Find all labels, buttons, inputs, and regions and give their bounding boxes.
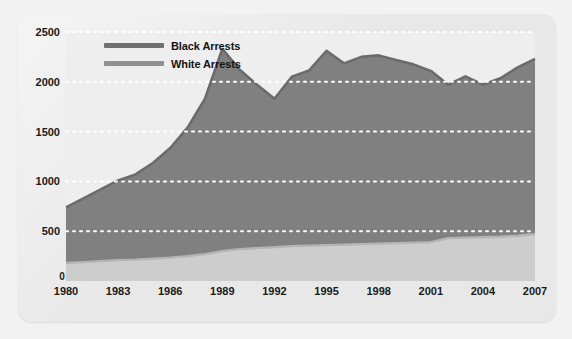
legend-label-white-arrests: White Arrests bbox=[171, 58, 241, 70]
stacked-area-chart: 5001000150020002500 19801983198619891992… bbox=[0, 0, 572, 339]
x-tick-label: 1992 bbox=[262, 285, 286, 297]
y-tick-label: 2500 bbox=[36, 26, 60, 38]
chart-page: 5001000150020002500 19801983198619891992… bbox=[0, 0, 572, 339]
y-tick-label: 1000 bbox=[36, 175, 60, 187]
chart-legend: Black Arrests White Arrests bbox=[104, 38, 241, 74]
y-axis: 5001000150020002500 bbox=[0, 0, 60, 339]
x-tick-label: 1986 bbox=[158, 285, 182, 297]
y-tick-label: 2000 bbox=[36, 76, 60, 88]
y-tick-label: 500 bbox=[42, 225, 60, 237]
x-tick-label: 1983 bbox=[106, 285, 130, 297]
legend-swatch-black-arrests bbox=[104, 43, 164, 48]
y-tick-label: 1500 bbox=[36, 126, 60, 138]
x-tick-label: 1995 bbox=[314, 285, 338, 297]
legend-label-black-arrests: Black Arrests bbox=[171, 40, 240, 52]
legend-item-white-arrests: White Arrests bbox=[104, 56, 241, 71]
series-areas bbox=[66, 49, 535, 281]
x-tick-label: 1989 bbox=[210, 285, 234, 297]
x-tick-label: 1980 bbox=[54, 285, 78, 297]
x-tick-label: 1998 bbox=[366, 285, 390, 297]
x-tick-label: 2007 bbox=[523, 285, 547, 297]
y-axis-zero-label: 0 bbox=[59, 271, 65, 282]
x-tick-label: 2001 bbox=[419, 285, 443, 297]
legend-item-black-arrests: Black Arrests bbox=[104, 38, 241, 53]
x-tick-label: 2004 bbox=[471, 285, 495, 297]
legend-swatch-white-arrests bbox=[104, 61, 164, 66]
